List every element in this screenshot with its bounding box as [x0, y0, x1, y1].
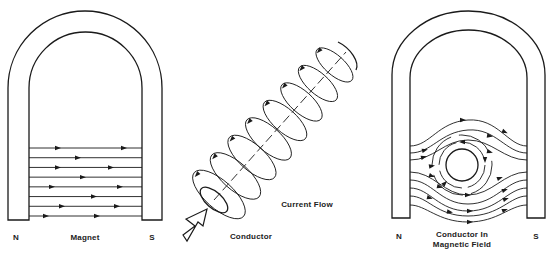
- field-line-arrow: [108, 165, 114, 169]
- field-line: [410, 130, 527, 153]
- field-line: [410, 172, 527, 195]
- field-line-arrow: [114, 204, 120, 208]
- field-line-arrow: [91, 194, 97, 198]
- magnet-field-lines: [29, 146, 142, 218]
- north-pole-label-1: N: [13, 233, 19, 242]
- field-line-arrow: [94, 214, 100, 218]
- field-line-arrow: [80, 175, 86, 179]
- north-pole-label-2: N: [396, 232, 402, 241]
- horseshoe-magnet-1: [8, 11, 162, 220]
- field-line-arrow: [501, 129, 508, 136]
- field-line-arrow: [55, 165, 61, 169]
- conductor-cross-section: [446, 149, 478, 181]
- field-line-arrow: [43, 214, 49, 218]
- field-line: [410, 180, 527, 204]
- south-pole-label-2: S: [533, 232, 539, 241]
- field-line-arrow: [59, 204, 65, 208]
- current-flow-label: Current Flow: [281, 200, 333, 209]
- ring-arrow: [228, 136, 235, 143]
- field-line-arrow: [55, 146, 61, 150]
- field-line-arrow: [75, 156, 81, 160]
- ring-arrow: [211, 153, 218, 160]
- field-line-arrow: [117, 185, 123, 189]
- south-pole-label-1: S: [149, 233, 155, 242]
- conductor-with-rings: [183, 42, 358, 241]
- magnet-caption: Magnet: [70, 233, 99, 242]
- ring-arrow: [263, 100, 270, 107]
- circular-field-arrow: [483, 157, 487, 163]
- field-line: [410, 188, 527, 211]
- field-line-arrow: [460, 118, 466, 122]
- ring-arrow: [245, 118, 252, 125]
- caption-line-1: Conductor In: [433, 230, 491, 240]
- field-line-arrow: [467, 220, 473, 224]
- conductor-wire: [214, 52, 346, 200]
- conductor-caption: Conductor: [230, 232, 272, 241]
- field-line-arrow: [49, 185, 55, 189]
- current-flow-arrow: [183, 209, 207, 241]
- field-line-arrow: [501, 187, 508, 193]
- field-line-arrow: [467, 209, 473, 213]
- circular-field-line: [432, 135, 492, 195]
- distorted-field-lines: [410, 118, 527, 224]
- conductor-in-field-caption: Conductor In Magnetic Field: [433, 230, 491, 250]
- field-line: [410, 120, 527, 146]
- conductor-end-cap: [338, 42, 357, 70]
- field-line-arrow: [121, 146, 127, 150]
- magnetic-field-ring: [311, 42, 359, 88]
- caption-line-2: Magnetic Field: [433, 240, 491, 250]
- field-line-arrow: [465, 193, 471, 197]
- field-line: [410, 205, 527, 222]
- diagram-canvas: [0, 0, 554, 255]
